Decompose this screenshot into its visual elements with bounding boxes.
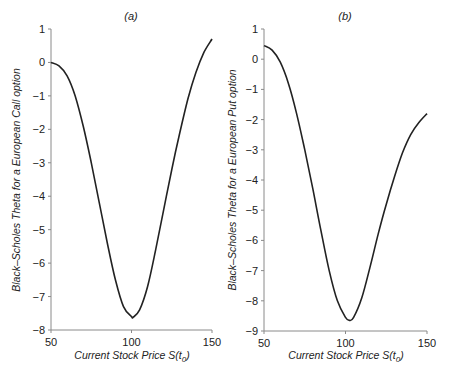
panel-a-y-axis-label: Black–Scholes Theta for a European Call … bbox=[10, 68, 22, 292]
chart-figure: (a) 10−1−2−3−4−5−6−7−8 50100150 Current … bbox=[0, 0, 452, 380]
y-tick-label: −7 bbox=[245, 265, 258, 277]
y-tick-label: 0 bbox=[252, 53, 258, 65]
panel-b-title: (b) bbox=[338, 10, 352, 22]
panel-b-put-theta: (b) 10−1−2−3−4−5−6−7−8−9 50100150 Curren… bbox=[226, 10, 436, 364]
x-tick-label: 150 bbox=[418, 337, 436, 349]
panel-b-y-axis-label: Black–Scholes Theta for a European Put o… bbox=[226, 69, 238, 290]
y-tick-label: −8 bbox=[245, 295, 258, 307]
y-tick-label: −9 bbox=[245, 325, 258, 337]
x-tick-label: 50 bbox=[45, 336, 57, 348]
y-tick-label: −3 bbox=[32, 157, 45, 169]
y-tick-label: −5 bbox=[245, 204, 258, 216]
panel-a-y-axis: 10−1−2−3−4−5−6−7−8 bbox=[32, 23, 51, 336]
y-tick-label: −6 bbox=[32, 257, 45, 269]
y-tick-label: −1 bbox=[245, 83, 258, 95]
y-tick-label: −5 bbox=[32, 224, 45, 236]
y-tick-label: −7 bbox=[32, 291, 45, 303]
y-tick-label: 1 bbox=[252, 23, 258, 35]
panel-b-y-axis: 10−1−2−3−4−5−6−7−8−9 bbox=[245, 23, 264, 337]
x-tick-label: 150 bbox=[203, 336, 221, 348]
x-tick-label: 50 bbox=[258, 337, 270, 349]
y-tick-label: −1 bbox=[32, 90, 45, 102]
panel-b-x-axis: 50100150 bbox=[258, 331, 436, 349]
panel-a-call-theta: (a) 10−1−2−3−4−5−6−7−8 50100150 Current … bbox=[10, 10, 221, 364]
x-tick-label: 100 bbox=[336, 337, 354, 349]
y-tick-label: −2 bbox=[245, 114, 258, 126]
y-tick-label: −4 bbox=[32, 190, 45, 202]
panel-a-x-axis-label: Current Stock Price S(t0) bbox=[74, 349, 189, 364]
y-tick-label: −8 bbox=[32, 324, 45, 336]
panel-b-x-axis-label: Current Stock Price S(t0) bbox=[288, 349, 403, 364]
y-tick-label: −2 bbox=[32, 123, 45, 135]
y-tick-label: 1 bbox=[39, 23, 45, 35]
y-tick-label: 0 bbox=[39, 56, 45, 68]
panel-a-title: (a) bbox=[124, 10, 138, 22]
panel-a-call-theta-curve bbox=[51, 39, 212, 318]
panel-a-x-axis: 50100150 bbox=[45, 330, 221, 348]
panel-b-put-theta-curve bbox=[264, 46, 427, 321]
y-tick-label: −4 bbox=[245, 174, 258, 186]
x-tick-label: 100 bbox=[122, 336, 140, 348]
y-tick-label: −3 bbox=[245, 144, 258, 156]
y-tick-label: −6 bbox=[245, 234, 258, 246]
